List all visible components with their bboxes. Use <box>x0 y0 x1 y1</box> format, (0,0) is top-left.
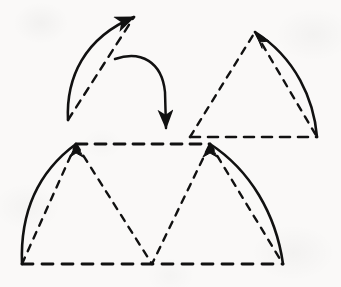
ink-layer <box>22 17 317 264</box>
transform-arrow-path <box>115 56 166 128</box>
bottom-dome-zigzag <box>76 144 210 264</box>
geometry-figure <box>0 0 341 287</box>
shape-top-right-triangle <box>190 32 317 137</box>
top-right-inner-chord <box>255 32 317 137</box>
bottom-dome-right-chord <box>210 144 283 264</box>
shape-bottom-dome <box>22 144 283 264</box>
figure-canvas <box>0 0 341 287</box>
top-right-left-side <box>190 32 255 137</box>
transform-arrow <box>115 56 166 128</box>
shape-top-left-lune <box>68 17 134 120</box>
